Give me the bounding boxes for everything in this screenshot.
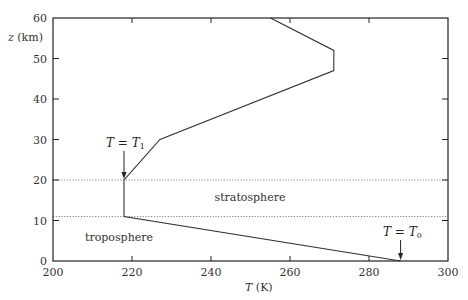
y-axis-label: z (km): [7, 31, 43, 44]
svg-text:220: 220: [122, 266, 143, 279]
svg-text:20: 20: [33, 174, 47, 187]
t1-annotation: T = T1: [106, 136, 145, 151]
x-tick-labels: 200 220 240 260 280 300: [43, 266, 459, 279]
t0-arrow-head-icon: [398, 253, 403, 260]
stratosphere-label: stratosphere: [215, 191, 286, 204]
svg-text:30: 30: [33, 134, 47, 147]
troposphere-label: troposphere: [85, 231, 153, 244]
svg-text:300: 300: [438, 266, 459, 279]
svg-text:60: 60: [33, 12, 47, 25]
svg-text:50: 50: [33, 53, 47, 66]
svg-text:40: 40: [33, 93, 47, 106]
svg-text:260: 260: [280, 266, 301, 279]
svg-text:240: 240: [201, 266, 222, 279]
chart: 200 220 240 260 280 300 0 10 20 30 40 50…: [0, 0, 468, 300]
temperature-profile-line: [124, 18, 401, 261]
svg-text:280: 280: [359, 266, 380, 279]
svg-text:10: 10: [33, 215, 47, 228]
t0-annotation: T = T0: [383, 225, 422, 240]
x-axis-label: T (K): [245, 281, 273, 294]
y-tick-labels: 0 10 20 30 40 50 60: [33, 12, 47, 268]
svg-text:0: 0: [40, 255, 47, 268]
